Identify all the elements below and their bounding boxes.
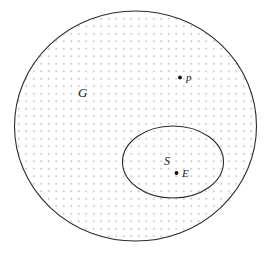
inner-set-label: S — [164, 154, 170, 168]
point-e-label: E — [181, 167, 189, 179]
outer-set-label: G — [78, 85, 88, 100]
point-p-marker-icon — [178, 76, 182, 80]
set-diagram-figure: G S p E — [0, 0, 271, 253]
outer-set-fill — [15, 11, 257, 241]
point-p-label: p — [185, 71, 192, 83]
point-e-marker-icon — [175, 171, 179, 175]
outer-set-region[interactable] — [15, 11, 257, 241]
venn-diagram-canvas: G S p E — [0, 0, 271, 253]
